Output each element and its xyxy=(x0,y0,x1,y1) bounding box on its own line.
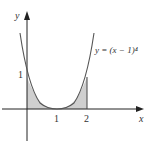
shaded-region xyxy=(27,77,87,109)
y-tick-1: 1 xyxy=(18,69,23,80)
x-axis-label: x xyxy=(138,113,144,124)
y-axis-label: y xyxy=(14,10,20,21)
x-tick-1: 1 xyxy=(54,113,59,124)
y-axis-arrow-icon xyxy=(24,11,30,20)
equation-label: y = (x − 1)⁴ xyxy=(94,45,138,55)
graph-diagram: y x 1 2 1 y = (x − 1)⁴ xyxy=(0,0,145,141)
x-tick-2: 2 xyxy=(84,113,89,124)
x-axis-arrow-icon xyxy=(136,106,144,112)
